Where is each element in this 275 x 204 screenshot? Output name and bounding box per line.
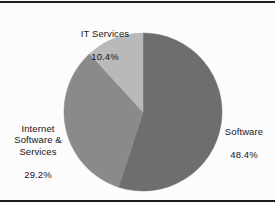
pie-chart-figure: IT Services 10.4% Internet Software & Se… bbox=[0, 0, 275, 204]
pie-label-it-services: IT Services 10.4% bbox=[55, 16, 155, 74]
pie-label-it-services-name: IT Services bbox=[55, 28, 155, 40]
pie-label-software-value: 48.4% bbox=[213, 149, 275, 161]
plot-area: IT Services 10.4% Internet Software & Se… bbox=[0, 4, 275, 200]
pie-label-software-name: Software bbox=[213, 126, 275, 138]
figure-top-rule bbox=[0, 1, 275, 3]
pie-label-internet-software-services-name: Internet Software & Services bbox=[2, 123, 74, 158]
pie-label-software: Software 48.4% bbox=[213, 114, 275, 172]
pie-label-internet-software-services: Internet Software & Services 29.2% bbox=[2, 111, 74, 192]
pie-label-it-services-value: 10.4% bbox=[55, 51, 155, 63]
figure-bottom-rule bbox=[0, 200, 275, 202]
pie-label-internet-software-services-value: 29.2% bbox=[2, 169, 74, 181]
